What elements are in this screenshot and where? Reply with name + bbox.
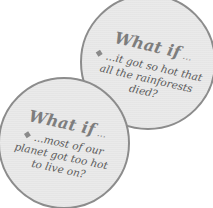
heading-ellipsis: ...	[94, 127, 108, 139]
diamond-bullet-icon	[95, 50, 102, 57]
heading-ellipsis: ...	[179, 50, 193, 62]
diamond-bullet-icon	[24, 131, 31, 138]
what-if-illustration: What if ... ...it got so hot that all th…	[0, 0, 213, 208]
what-if-bubble-planet: What if ... ...most of our planet got to…	[0, 77, 130, 208]
bubble-content: What if ... ...most of our planet got to…	[0, 77, 130, 208]
